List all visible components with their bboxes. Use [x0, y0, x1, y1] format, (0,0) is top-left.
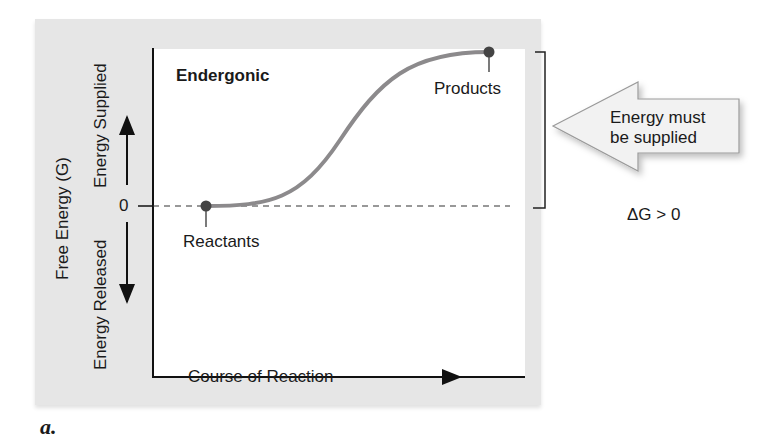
- energy-bracket: [533, 52, 545, 208]
- y-axis-label: Free Energy (G): [53, 157, 73, 280]
- products-dot: [484, 47, 495, 58]
- zero-tick-label: 0: [119, 196, 128, 216]
- energy-supplied-label: Energy Supplied: [91, 63, 111, 188]
- reactants-dot: [201, 201, 212, 212]
- diagram-title: Endergonic: [176, 66, 270, 86]
- callout-line-1: Energy must: [610, 108, 705, 128]
- energy-released-label: Energy Released: [91, 240, 111, 370]
- callout-line-2: be supplied: [610, 128, 705, 148]
- x-axis-label: Course of Reaction: [188, 367, 334, 387]
- panel-label: a.: [40, 414, 57, 440]
- products-label: Products: [434, 79, 501, 99]
- delta-g-label: ΔG > 0: [627, 205, 680, 225]
- reactants-label: Reactants: [183, 232, 260, 252]
- callout-text: Energy must be supplied: [610, 108, 705, 148]
